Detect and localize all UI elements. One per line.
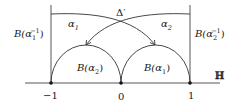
lv-sup: −1 <box>30 27 40 35</box>
left-vertical-region-label: B(α1−1) <box>14 29 44 39</box>
rs-suffix: ) <box>166 62 170 73</box>
point-minus-one <box>49 81 53 85</box>
tick-label-one: 1 <box>188 91 194 101</box>
tick-label-zero: 0 <box>118 92 124 102</box>
left-semicircle-region-label: B(α2) <box>77 63 103 73</box>
point-one <box>188 81 192 85</box>
rv-sub: 2 <box>213 34 217 42</box>
upper-half-plane-label: ℍ <box>215 71 224 81</box>
rv-suffix: ) <box>221 28 225 39</box>
alpha2-label: α2 <box>161 19 172 29</box>
rv-sup: −1 <box>211 27 221 35</box>
ls-suffix: ) <box>99 62 103 73</box>
alpha2-base: α <box>161 18 168 29</box>
lv-prefix: B( <box>14 28 25 39</box>
point-zero <box>119 81 123 85</box>
rs-prefix: B( <box>144 62 155 73</box>
delta-prime-label: Δ′ <box>116 8 126 18</box>
ls-base: α <box>88 62 95 73</box>
rv-prefix: B( <box>195 28 206 39</box>
tick-label-minus-one: −1 <box>43 91 58 101</box>
rs-base: α <box>155 62 162 73</box>
alpha2-sub: 2 <box>168 24 172 32</box>
lv-sub: 1 <box>32 34 36 42</box>
alpha1-base: α <box>68 18 75 29</box>
right-semicircle-region-label: B(α1) <box>144 63 170 73</box>
lv-suffix: ) <box>40 28 44 39</box>
alpha1-sub: 1 <box>75 24 79 32</box>
ls-prefix: B( <box>77 62 88 73</box>
alpha1-label: α1 <box>68 19 79 29</box>
right-vertical-region-label: B(α2−1) <box>195 29 225 39</box>
